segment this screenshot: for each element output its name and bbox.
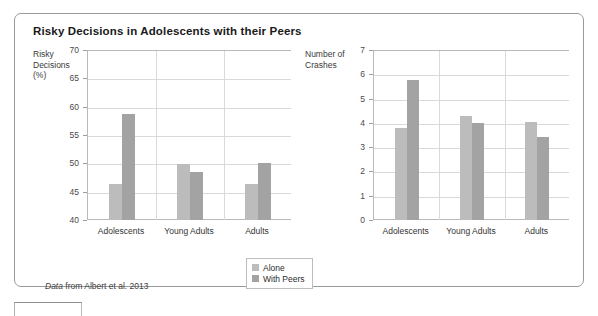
left-chart-plot-area bbox=[87, 50, 291, 220]
left-chart-y-tick bbox=[83, 135, 87, 136]
left-chart-gridline bbox=[88, 108, 291, 109]
right-chart-y-tick bbox=[369, 147, 373, 148]
left-chart-bar bbox=[122, 114, 135, 220]
left-chart-bar bbox=[245, 184, 258, 220]
right-chart-y-tick-label: 6 bbox=[343, 69, 365, 79]
right-chart-y-tick-label: 2 bbox=[343, 166, 365, 176]
legend-item-alone: Alone bbox=[252, 262, 305, 273]
right-chart-y-tick-label: 3 bbox=[343, 142, 365, 152]
right-chart-y-tick bbox=[369, 123, 373, 124]
right-chart-bar bbox=[537, 137, 549, 220]
right-chart-y-tick-label: 5 bbox=[343, 94, 365, 104]
right-chart-category-separator bbox=[505, 51, 506, 220]
left-chart-y-tick-label: 60 bbox=[57, 102, 79, 112]
left-chart-x-tick-label: Adults bbox=[223, 226, 291, 236]
right-chart-y-tick-label: 0 bbox=[343, 215, 365, 225]
right-chart-y-tick-label: 1 bbox=[343, 191, 365, 201]
left-chart-y-tick bbox=[83, 50, 87, 51]
legend-swatch-with-peers-icon bbox=[252, 275, 259, 282]
left-chart-bar bbox=[109, 184, 122, 220]
right-chart-y-tick bbox=[369, 196, 373, 197]
left-chart-y-tick bbox=[83, 163, 87, 164]
right-chart-category-separator bbox=[439, 51, 440, 220]
left-chart-category-separator bbox=[224, 51, 225, 220]
right-chart-y-tick bbox=[369, 74, 373, 75]
left-chart-gridline bbox=[88, 136, 291, 137]
left-chart-x-tick-label: Adolescents bbox=[87, 226, 155, 236]
left-chart-y-tick bbox=[83, 220, 87, 221]
right-chart-y-tick bbox=[369, 171, 373, 172]
source-citation: Data from Albert et al. 2013 bbox=[45, 281, 149, 291]
right-chart-y-tick bbox=[369, 220, 373, 221]
page-title: Risky Decisions in Adolescents with thei… bbox=[33, 25, 302, 37]
right-chart-y-tick-label: 7 bbox=[343, 45, 365, 55]
left-chart-gridline bbox=[88, 79, 291, 80]
left-chart-bar bbox=[177, 164, 190, 220]
right-chart-plot-area bbox=[373, 50, 569, 220]
left-chart-x-tick-label: Young Adults bbox=[155, 226, 223, 236]
right-chart-y-tick bbox=[369, 99, 373, 100]
legend-swatch-alone-icon bbox=[252, 264, 259, 271]
left-chart-y-tick bbox=[83, 192, 87, 193]
right-chart-y-tick-label: 4 bbox=[343, 118, 365, 128]
legend-label-alone: Alone bbox=[263, 263, 285, 273]
right-chart-x-tick-label: Young Adults bbox=[438, 226, 503, 236]
left-chart-y-tick bbox=[83, 107, 87, 108]
source-citation-rest: from Albert et al. 2013 bbox=[63, 281, 149, 291]
left-chart-category-separator bbox=[156, 51, 157, 220]
legend-item-with-peers: With Peers bbox=[252, 273, 305, 284]
left-chart-y-tick-label: 50 bbox=[57, 158, 79, 168]
right-chart-y-tick bbox=[369, 50, 373, 51]
legend-label-with-peers: With Peers bbox=[263, 274, 305, 284]
right-chart-bar bbox=[472, 123, 484, 220]
right-chart-x-tick-label: Adolescents bbox=[373, 226, 438, 236]
left-chart-bar bbox=[190, 172, 203, 220]
left-chart-y-tick-label: 40 bbox=[57, 215, 79, 225]
right-chart-bar bbox=[395, 128, 407, 220]
left-chart-bar bbox=[258, 163, 271, 220]
right-chart-bar bbox=[407, 80, 419, 220]
left-chart-y-tick-label: 70 bbox=[57, 45, 79, 55]
left-chart-y-tick-label: 45 bbox=[57, 187, 79, 197]
left-chart-y-tick-label: 65 bbox=[57, 73, 79, 83]
chart-legend: Alone With Peers bbox=[246, 258, 313, 289]
right-chart-bar bbox=[525, 122, 537, 220]
page-corner-artifact bbox=[14, 302, 82, 316]
right-chart-gridline bbox=[374, 75, 569, 76]
right-chart-bar bbox=[460, 116, 472, 220]
left-chart-y-tick bbox=[83, 78, 87, 79]
right-chart-gridline bbox=[374, 100, 569, 101]
right-chart-x-tick-label: Adults bbox=[504, 226, 569, 236]
left-chart-y-tick-label: 55 bbox=[57, 130, 79, 140]
source-citation-emphasis: Data bbox=[45, 281, 63, 291]
figure-panel: Risky Decisions in Adolescents with thei… bbox=[14, 13, 584, 287]
